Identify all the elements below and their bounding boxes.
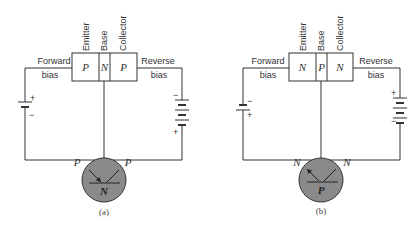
svg-text:+: + [391, 88, 396, 98]
svg-text:Emitter: Emitter [298, 22, 308, 51]
svg-text:P: P [124, 156, 132, 168]
svg-text:N: N [99, 185, 109, 197]
svg-text:bias: bias [260, 70, 277, 80]
region-emitter: P [81, 61, 89, 73]
region-collector: P [119, 61, 127, 73]
npn-symbol: P N N (b) [292, 156, 351, 216]
base-label: Base [99, 30, 109, 51]
caption-a: (a) [99, 207, 109, 217]
svg-text:N: N [298, 61, 307, 73]
battery-minus-sign: − [29, 110, 34, 120]
svg-text:P: P [318, 184, 325, 196]
pnp-symbol: N P P (a) [73, 156, 132, 217]
battery-plus-sign: + [30, 93, 35, 103]
reverse-bias-label: Reverse [141, 56, 175, 66]
svg-text:bias: bias [368, 70, 385, 80]
svg-text:Forward: Forward [251, 56, 284, 66]
battery-minus-sign: − [173, 90, 178, 100]
region-base: N [100, 61, 109, 73]
svg-text:+: + [247, 110, 252, 120]
collector-label: Collector [118, 15, 128, 51]
forward-bias-label-2: bias [42, 70, 59, 80]
caption-b: (b) [316, 206, 327, 216]
svg-text:N: N [342, 156, 351, 168]
svg-text:P: P [317, 61, 325, 73]
svg-text:Collector: Collector [335, 15, 345, 51]
diagram-b-labels: N P N Emitter Base Collector Forward bia… [247, 15, 396, 126]
svg-text:P: P [73, 156, 81, 168]
reverse-bias-label-2: bias [151, 70, 168, 80]
svg-text:−: − [391, 116, 396, 126]
battery-plus-sign: + [173, 127, 178, 137]
svg-text:Base: Base [316, 30, 326, 51]
svg-text:−: − [247, 96, 252, 106]
forward-bias-label: Forward [37, 56, 70, 66]
emitter-label: Emitter [81, 22, 91, 51]
svg-text:N: N [335, 61, 344, 73]
svg-text:N: N [292, 156, 301, 168]
transistor-bias-diagrams: P N P Emitter Base Collector Forward bia… [0, 0, 420, 229]
svg-text:Reverse: Reverse [359, 56, 393, 66]
